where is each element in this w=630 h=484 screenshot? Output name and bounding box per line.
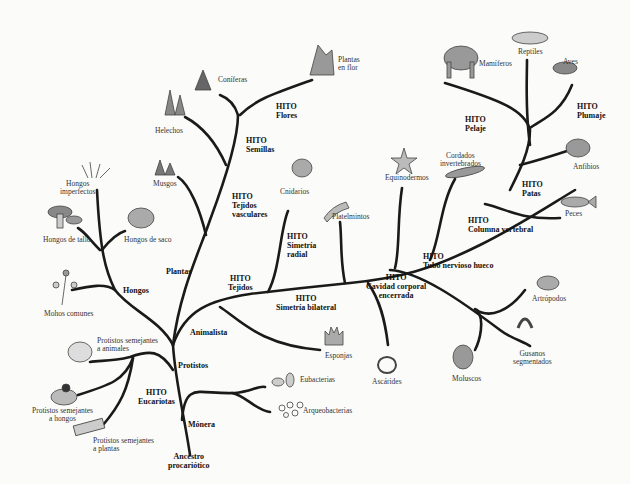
sac-fungus-icon [128,208,154,228]
fungus-like-protist-icon [51,384,77,405]
label-mamiferos: Mamíferos [479,60,512,68]
archaebacteria-icon [279,402,303,418]
mollusk-icon [453,345,473,369]
animal-like-protist-icon [68,342,92,362]
label-artropodos: Artrópodos [532,295,566,303]
label-anfibios: Anfibios [573,163,599,171]
flowering-plant-icon [310,45,334,75]
starfish-icon [391,148,417,174]
label-coniferas: Coníferas [218,76,247,84]
label-equinodermos: Equinodermos [385,174,429,182]
label-cordados-invertebrados: Cordadosinvertebrados [440,152,481,168]
reptile-icon [512,32,548,44]
arthropod-icon [537,276,559,290]
label-protistos-plantas: Protistos semejantesa plantas [93,437,154,453]
label-reptiles: Reptiles [518,48,543,56]
cnidarian-icon [292,159,312,177]
label-plantas-flor: Plantasen flor [338,56,360,72]
roundworm-icon [378,357,396,373]
label-ascarides: Ascárides [372,378,402,386]
label-moluscos: Moluscos [452,375,481,383]
imperfect-fungus-icon [82,162,110,178]
label-protistos-hongos: Protistos semejantesa hongos [32,407,93,423]
label-arqueobacterias: Arqueobacterias [303,407,352,415]
label-mohos-comunes: Mohos comunes [44,310,93,318]
label-cnidarios: Cnidarios [280,188,309,196]
label-helechos: Helechos [155,127,183,135]
label-gusanos-segmentados: Gusanossegmentados [513,350,552,366]
fish-icon [561,196,596,208]
common-mold-icon [53,270,77,305]
label-protistos-animales: Protistos semejantesa animales [97,337,158,353]
label-aves: Aves [563,58,578,66]
segmented-worm-icon [518,319,532,328]
moss-icon [155,160,175,175]
fern-icon [165,90,185,115]
mammal-icon [444,46,478,78]
amphibian-icon [566,139,590,157]
label-platelmintos: Platelmintos [332,213,370,221]
label-hongos-imperfectos: Hongosimperfectos [60,180,95,196]
label-eubacterias: Eubacterias [300,376,335,384]
conifer-icon [195,70,211,90]
label-esponjas: Esponjas [325,352,352,360]
eubacteria-icon [272,373,294,387]
label-peces: Peces [565,210,582,218]
sponge-icon [325,327,343,345]
label-hongos-saco: Hongos de saco [124,236,172,244]
stalk-fungus-icon [48,206,82,228]
label-hongos-tallo: Hongos de tallo [43,236,91,244]
label-musgos: Musgos [153,180,177,188]
